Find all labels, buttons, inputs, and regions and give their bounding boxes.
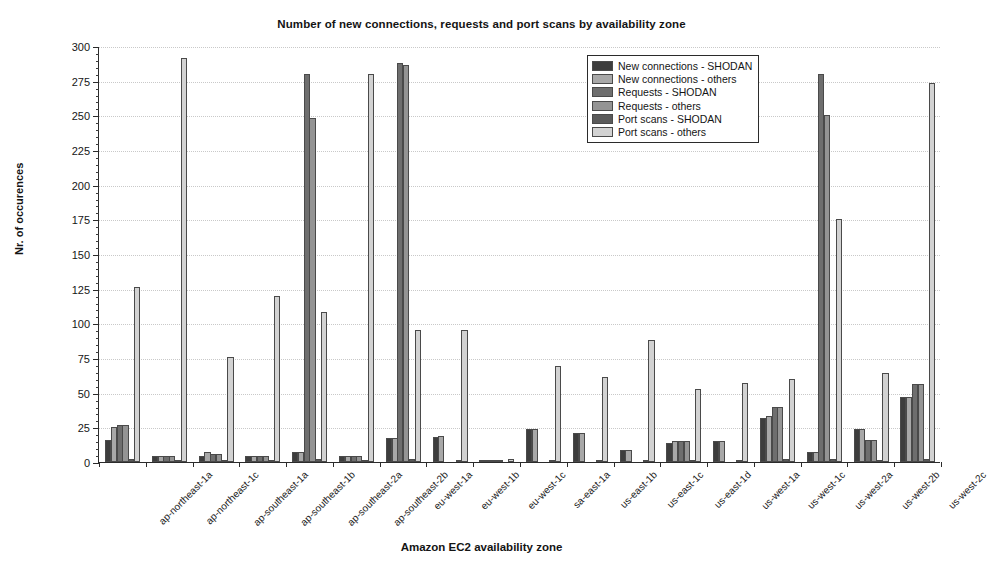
bar <box>871 440 877 462</box>
bar-group <box>152 47 187 462</box>
y-tick-minor <box>96 310 100 311</box>
bar <box>882 373 888 462</box>
y-tick-major <box>93 324 99 325</box>
bar <box>789 379 795 462</box>
y-tick-major <box>93 290 99 291</box>
y-tick-major <box>93 220 99 221</box>
bar <box>918 384 924 462</box>
y-tick-major <box>93 359 99 360</box>
y-tick-minor <box>96 75 100 76</box>
y-tick-minor <box>96 213 100 214</box>
legend-swatch-icon <box>592 114 613 124</box>
y-tick-minor <box>96 269 100 270</box>
bar <box>461 330 467 462</box>
y-tick-major <box>93 186 99 187</box>
bar <box>321 312 327 462</box>
y-tick-minor <box>96 130 100 131</box>
bar <box>532 429 538 462</box>
y-tick-minor <box>96 408 100 409</box>
y-tick-major <box>93 394 99 395</box>
y-tick-minor <box>96 158 100 159</box>
x-tick-label: us-west-1c <box>805 469 847 511</box>
y-tick-minor <box>96 123 100 124</box>
x-tick-label: us-west-1a <box>759 469 801 511</box>
y-tick-minor <box>96 89 100 90</box>
y-tick-minor <box>96 109 100 110</box>
bar <box>497 460 503 462</box>
x-tick <box>754 462 755 467</box>
y-tick-minor <box>96 352 100 353</box>
bar <box>648 340 654 462</box>
chart-title: Number of new connections, requests and … <box>0 18 963 30</box>
y-tick-minor <box>96 144 100 145</box>
y-tick-label: 200 <box>50 180 90 192</box>
y-tick-minor <box>96 297 100 298</box>
legend-label: New connections - others <box>618 73 736 85</box>
x-tick-label: eu-west-1c <box>525 469 567 511</box>
bar <box>742 383 748 462</box>
x-tick <box>894 462 895 467</box>
x-tick <box>193 462 194 467</box>
x-axis-label: Amazon EC2 availability zone <box>0 541 963 553</box>
y-tick-minor <box>96 380 100 381</box>
bar-group <box>386 47 421 462</box>
x-tick <box>333 462 334 467</box>
y-tick-label: 100 <box>50 318 90 330</box>
x-tick <box>380 462 381 467</box>
legend-item[interactable]: New connections - SHODAN <box>592 59 752 72</box>
y-tick-label: 50 <box>50 388 90 400</box>
bar-group <box>245 47 280 462</box>
x-tick-label: us-west-2b <box>899 469 941 511</box>
y-tick-minor <box>96 61 100 62</box>
bar-group <box>479 47 514 462</box>
bar <box>579 433 585 462</box>
y-tick-label: 300 <box>50 41 90 53</box>
y-tick-label: 0 <box>50 457 90 469</box>
y-tick-minor <box>96 435 100 436</box>
bar <box>555 366 561 462</box>
x-tick-label: us-west-2a <box>852 469 894 511</box>
y-tick-minor <box>96 401 100 402</box>
y-tick-minor <box>96 456 100 457</box>
x-tick <box>707 462 708 467</box>
x-tick <box>614 462 615 467</box>
y-tick-minor <box>96 414 100 415</box>
bar <box>719 441 725 462</box>
bar <box>309 118 315 462</box>
bar <box>929 83 935 462</box>
chart-legend: New connections - SHODANNew connections … <box>587 55 759 143</box>
bar <box>824 115 830 462</box>
y-tick-label: 250 <box>50 110 90 122</box>
x-tick-label: us-east-1c <box>665 469 706 510</box>
y-tick-major <box>93 82 99 83</box>
x-tick <box>286 462 287 467</box>
x-tick <box>660 462 661 467</box>
y-tick-minor <box>96 276 100 277</box>
y-tick-minor <box>96 193 100 194</box>
legend-item[interactable]: Requests - others <box>592 99 752 112</box>
bar <box>415 330 421 462</box>
legend-item[interactable]: New connections - others <box>592 72 752 85</box>
y-tick-minor <box>96 172 100 173</box>
legend-item[interactable]: Port scans - SHODAN <box>592 112 752 125</box>
legend-item[interactable]: Port scans - others <box>592 125 752 138</box>
y-tick-minor <box>96 317 100 318</box>
y-axis-label: Nr. of occurences <box>13 163 25 255</box>
y-tick-minor <box>96 165 100 166</box>
y-tick-minor <box>96 200 100 201</box>
legend-label: Requests - SHODAN <box>618 86 717 98</box>
x-tick <box>426 462 427 467</box>
bar-group <box>433 47 468 462</box>
bar-group <box>807 47 842 462</box>
bar-group <box>105 47 140 462</box>
bar <box>403 65 409 462</box>
x-tick-label: us-west-2c <box>946 469 988 511</box>
legend-swatch-icon <box>592 127 613 137</box>
bar-group <box>292 47 327 462</box>
plot-area: 0255075100125150175200225250275300 ap-no… <box>98 47 940 463</box>
y-tick-minor <box>96 421 100 422</box>
x-tick <box>473 462 474 467</box>
y-tick-label: 125 <box>50 284 90 296</box>
legend-item[interactable]: Requests - SHODAN <box>592 86 752 99</box>
legend-swatch-icon <box>592 101 613 111</box>
